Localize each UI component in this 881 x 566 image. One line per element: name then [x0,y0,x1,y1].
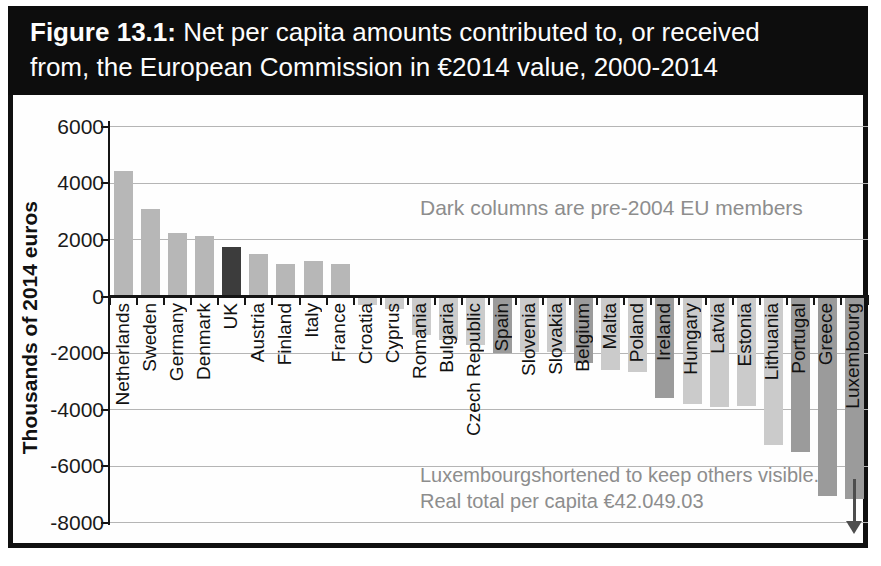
x-tick-mark [488,298,490,305]
bar-austria [249,254,268,296]
bar-label-romania: Romania [409,303,431,379]
zero-baseline [108,295,869,298]
bar-label-sweden: Sweden [139,303,161,372]
gridline [110,239,868,240]
bar-italy [304,261,323,296]
bar-label-latvia: Latvia [707,303,729,354]
bar-label-greece: Greece [815,303,837,365]
figure-number-label: Figure 13.1: [30,17,176,47]
x-tick-mark [217,298,219,305]
y-tick-label: 0 [28,286,104,308]
figure-title-line2: from, the European Commission in €2014 v… [30,50,868,85]
y-tick-label: -8000 [28,512,104,534]
bar-france [331,264,350,297]
bar-label-czech-republic: Czech Republic [463,303,485,436]
bar-label-luxembourg: Luxembourg [842,303,864,409]
x-tick-mark [515,298,517,305]
x-tick-mark [569,298,571,305]
bar-finland [276,264,295,297]
x-tick-mark [542,298,544,305]
x-tick-mark [867,298,869,305]
legend-note: Dark columns are pre-2004 EU members [420,196,803,220]
y-tick-label: 6000 [28,116,104,138]
bar-uk [222,247,241,297]
x-tick-mark [190,298,192,305]
gridline [110,409,868,410]
y-tick-label: -2000 [28,342,104,364]
bar-germany [168,233,187,297]
bar-label-estonia: Estonia [734,303,756,366]
figure-title-text-line1: Net per capita amounts contributed to, o… [176,17,760,47]
bar-label-hungary: Hungary [680,303,702,375]
bar-label-austria: Austria [247,303,269,362]
gridline [110,466,868,467]
bar-label-croatia: Croatia [355,303,377,364]
figure-title-line1: Figure 13.1: Net per capita amounts cont… [30,15,868,50]
bar-label-italy: Italy [301,303,323,338]
luxembourg-arrow-head [846,521,862,534]
luxembourg-note-line1: Luxembourgshortened to keep others visib… [420,464,819,487]
bar-label-france: France [328,303,350,362]
y-axis-line [108,121,110,525]
figure-13-1: Figure 13.1: Net per capita amounts cont… [0,0,881,566]
bar-label-spain: Spain [491,303,513,352]
gridline [110,126,868,127]
bar-label-bulgaria: Bulgaria [436,303,458,373]
bar-sweden [141,209,160,297]
bar-label-slovakia: Slovakia [545,303,567,375]
y-tick-label: 4000 [28,172,104,194]
bar-label-lithuania: Lithuania [761,303,783,380]
bar-label-portugal: Portugal [788,303,810,374]
bar-label-slovenia: Slovenia [518,303,540,376]
luxembourg-arrow-line [853,479,856,522]
y-tick-label: 2000 [28,229,104,251]
bar-label-ireland: Ireland [653,303,675,361]
bar-label-uk: UK [220,303,242,329]
bar-label-poland: Poland [626,303,648,362]
x-tick-mark [596,298,598,305]
x-tick-mark [163,298,165,305]
luxembourg-note-line2: Real total per capita €42.049.03 [420,490,704,513]
gridline [110,522,868,523]
bar-label-cyprus: Cyprus [382,303,404,363]
bar-netherlands [114,171,133,297]
bar-label-denmark: Denmark [193,303,215,380]
bar-label-finland: Finland [274,303,296,365]
bar-label-germany: Germany [166,303,188,381]
y-tick-label: -6000 [28,455,104,477]
y-tick-label: -4000 [28,399,104,421]
gridline [110,183,868,184]
bar-label-malta: Malta [599,303,621,349]
bar-denmark [195,236,214,297]
x-tick-mark [136,298,138,305]
bar-label-belgium: Belgium [572,303,594,372]
figure-title-band: Figure 13.1: Net per capita amounts cont… [8,6,868,95]
bar-label-netherlands: Netherlands [112,303,134,405]
